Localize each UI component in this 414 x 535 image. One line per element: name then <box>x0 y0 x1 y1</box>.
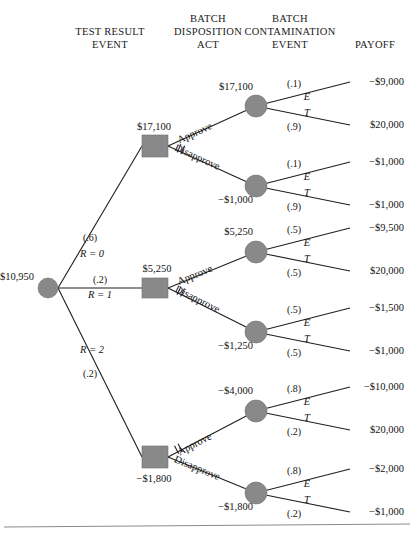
chance-value-0: $17,100 <box>219 81 253 92</box>
payoff-5: $20,000 <box>370 265 404 276</box>
column-header-1: BATCH <box>190 13 226 24</box>
disapprove-label-1: Disapprove <box>173 283 222 315</box>
column-header-0: EVENT <box>92 39 128 50</box>
root-value: $10,950 <box>0 271 34 282</box>
column-header-2: EVENT <box>272 39 308 50</box>
lower-prob-0: (.9) <box>287 121 301 133</box>
column-headers: TEST RESULTEVENTBATCHDISPOSITIONACTBATCH… <box>75 13 395 50</box>
upper-prob-5: (.8) <box>287 465 301 477</box>
decision-value-1: $5,250 <box>143 263 172 274</box>
test-result-1: R = 1 <box>87 289 112 300</box>
column-header-2: CONTAMINATION <box>244 26 335 37</box>
payoff-2: −$1,000 <box>369 156 404 167</box>
decision-value-2: −$1,800 <box>137 473 172 484</box>
upper-prob-4: (.8) <box>287 383 301 395</box>
lower-prob-2: (.5) <box>287 267 301 279</box>
payoff-11: −$1,000 <box>369 506 404 517</box>
column-header-1: ACT <box>197 39 219 50</box>
payoff-1: $20,000 <box>370 119 404 130</box>
event-t-label-4: T <box>304 412 311 423</box>
test-branch-2 <box>58 288 142 457</box>
chance-value-5: −$1,800 <box>218 501 253 512</box>
decision-tree-figure: TEST RESULTEVENTBATCHDISPOSITIONACTBATCH… <box>0 0 414 535</box>
chance-value-3: −$1,250 <box>218 340 253 351</box>
chance-value-2: $5,250 <box>224 226 253 237</box>
disapprove-label-2: Disapprove <box>173 454 222 483</box>
chance-value-1: −$1,000 <box>218 194 253 205</box>
payoff-7: −$1,000 <box>369 345 404 356</box>
event-e-label-5: E <box>303 478 311 489</box>
event-e-label-1: E <box>303 171 311 182</box>
event-t-label-5: T <box>304 494 311 505</box>
decision-node-0 <box>142 135 168 157</box>
payoff-9: $20,000 <box>370 424 404 435</box>
lower-prob-5: (.2) <box>287 508 301 520</box>
event-t-label-3: T <box>304 333 311 344</box>
lower-prob-1: (.9) <box>287 201 301 213</box>
lower-prob-4: (.2) <box>287 426 301 438</box>
payoff-6: −$1,500 <box>369 302 404 313</box>
event-t-label-0: T <box>304 107 311 118</box>
approve-label-2: Approve <box>176 430 214 457</box>
column-header-3: PAYOFF <box>355 39 395 50</box>
decision-value-0: $17,100 <box>137 121 171 132</box>
payoff-8: −$10,000 <box>364 381 404 392</box>
disapprove-label-0: Disapprove <box>173 142 222 172</box>
event-t-label-1: T <box>304 187 311 198</box>
bottom-rule <box>4 524 410 527</box>
root-chance-node <box>38 278 58 298</box>
event-e-label-3: E <box>303 317 311 328</box>
event-e-label-0: E <box>303 91 311 102</box>
payoff-4: −$9,500 <box>369 222 404 233</box>
payoff-0: −$9,000 <box>369 76 404 87</box>
test-prob-1: (.2) <box>93 274 107 286</box>
chance-node-0 <box>245 95 267 117</box>
decision-node-1 <box>142 278 168 298</box>
approve-label-1: Approve <box>176 263 214 287</box>
tree-nodes <box>38 95 267 504</box>
upper-prob-3: (.5) <box>287 304 301 316</box>
column-header-2: BATCH <box>272 13 308 24</box>
chance-value-4: −$4,000 <box>218 385 253 396</box>
chance-node-4 <box>245 400 267 422</box>
upper-prob-1: (.1) <box>287 158 301 170</box>
lower-prob-3: (.5) <box>287 347 301 359</box>
test-result-0: R = 0 <box>79 248 105 259</box>
payoff-10: −$2,000 <box>369 463 404 474</box>
tree-labels: $10,950(.6)R = 0(.2)R = 1(.2)R = 2$17,10… <box>0 76 404 520</box>
event-t-label-2: T <box>304 253 311 264</box>
test-prob-2: (.2) <box>83 368 97 380</box>
event-e-label-2: E <box>303 237 311 248</box>
test-prob-0: (.6) <box>83 232 97 244</box>
chance-node-2 <box>245 241 267 263</box>
column-header-0: TEST RESULT <box>75 26 145 37</box>
upper-prob-2: (.5) <box>287 224 301 236</box>
column-header-1: DISPOSITION <box>174 26 242 37</box>
approve-label-0: Approve <box>176 120 214 145</box>
payoff-3: −$1,000 <box>369 199 404 210</box>
event-e-label-4: E <box>303 396 311 407</box>
decision-tree-svg: TEST RESULTEVENTBATCHDISPOSITIONACTBATCH… <box>0 0 414 535</box>
test-result-2: R = 2 <box>79 344 105 355</box>
upper-prob-0: (.1) <box>287 78 301 90</box>
test-branch-0 <box>58 146 142 288</box>
decision-node-2 <box>142 446 168 468</box>
